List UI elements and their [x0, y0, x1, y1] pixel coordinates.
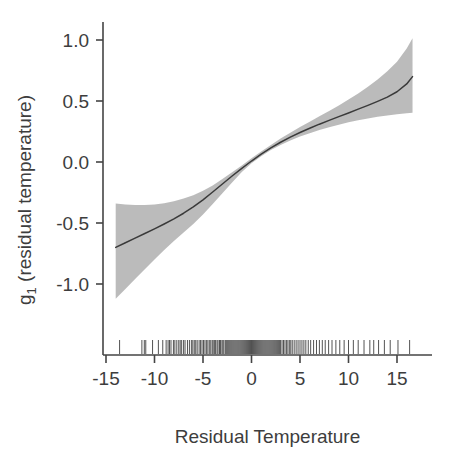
- x-tick-label: 5: [295, 368, 306, 389]
- x-tick-label: -5: [195, 368, 212, 389]
- y-axis-title-rest: (residual temperature): [14, 95, 35, 287]
- x-axis-title: Residual Temperature: [175, 426, 361, 447]
- y-tick-label: -1.0: [56, 274, 89, 295]
- y-tick-label: 1.0: [63, 30, 89, 51]
- y-tick-label: 0.0: [63, 152, 89, 173]
- smooth-term-plot: 1.00.50.0-0.5-1.0 -15-10-5051015 Residua…: [0, 0, 461, 465]
- x-tick-label: 10: [338, 368, 359, 389]
- x-tick-label: 15: [386, 368, 407, 389]
- x-tick-label: 0: [246, 368, 257, 389]
- chart-figure: 1.00.50.0-0.5-1.0 -15-10-5051015 Residua…: [0, 0, 461, 465]
- y-axis-title-base: g: [14, 294, 35, 305]
- y-axis-title-subscript: 1: [24, 287, 39, 294]
- y-tick-label: 0.5: [63, 91, 89, 112]
- x-tick-label: -10: [141, 368, 168, 389]
- x-tick-label: -15: [92, 368, 119, 389]
- y-tick-label: -0.5: [56, 213, 89, 234]
